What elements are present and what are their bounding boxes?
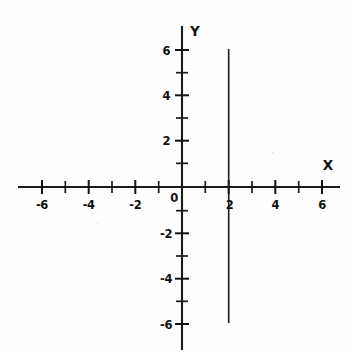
coordinate-plane-plot: -6 -4 -2 2 4 6 0 6 4 2 -2 -4 -6 X Y	[0, 0, 350, 356]
scan-speck	[96, 223, 98, 224]
x-tick-label--2: -2	[129, 198, 141, 212]
x-tick-label-2: 2	[226, 198, 234, 212]
graph-canvas: -6 -4 -2 2 4 6 0 6 4 2 -2 -4 -6 X Y	[0, 0, 350, 356]
x-axis-label: X	[323, 157, 334, 173]
y-tick-label--4: -4	[160, 272, 172, 286]
y-tick-label-6: 6	[162, 44, 170, 58]
y-axis-label: Y	[189, 23, 200, 39]
y-tick-label--2: -2	[160, 227, 172, 241]
origin-label: 0	[170, 191, 178, 205]
y-tick-label-4: 4	[162, 89, 170, 103]
x-tick-label-4: 4	[271, 198, 279, 212]
scan-speck	[18, 188, 21, 189]
scan-speck	[272, 152, 274, 154]
x-tick-label--4: -4	[83, 198, 95, 212]
x-tick-label--6: -6	[36, 198, 48, 212]
y-tick-label--6: -6	[160, 318, 172, 332]
y-tick-label-2: 2	[162, 134, 170, 148]
x-tick-label-6: 6	[318, 198, 326, 212]
